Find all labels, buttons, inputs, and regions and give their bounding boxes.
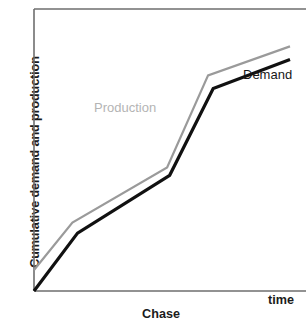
chart-title: Chase <box>0 306 306 322</box>
plot-area <box>0 0 306 326</box>
series-annotation-production: Production <box>94 100 156 116</box>
chart-title-text: Chase <box>142 307 180 321</box>
series-line-demand <box>34 60 290 291</box>
series-annotation-demand: Demand <box>243 67 292 83</box>
axis-frame <box>34 9 306 291</box>
chart-figure: Cumulative demand and production Demand … <box>0 0 306 326</box>
